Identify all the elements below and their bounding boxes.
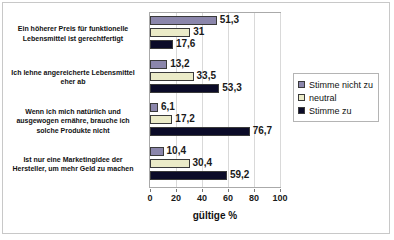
axis-tick-label: 100: [272, 193, 287, 203]
category-label: Ein höherer Preis für funktionelleLebens…: [3, 24, 143, 43]
bar-group: 6,117,276,7: [150, 100, 280, 144]
legend-swatch-icon: [298, 81, 305, 88]
category-label-line: Ein höherer Preis für funktionelle: [3, 24, 143, 34]
bar[interactable]: [150, 171, 227, 180]
bar-value-label: 6,1: [161, 100, 175, 114]
category-label-line: Lebensmittel ist gerechtfertigt: [3, 34, 143, 44]
bar[interactable]: [150, 40, 173, 49]
category-label-line: ausgewogen ernähre, brauche ich: [3, 116, 143, 126]
axis-tick-label: 40: [197, 193, 207, 203]
axis-tick-label: 20: [171, 193, 181, 203]
category-label-line: Ich lehne angereicherte Lebensmittel: [3, 68, 143, 78]
bar-value-label: 17,2: [175, 112, 194, 126]
bar-value-label: 17,6: [176, 37, 195, 51]
bar-value-label: 30,4: [193, 156, 212, 170]
bar-value-label: 13,2: [170, 57, 189, 71]
axis-tick-label: 80: [249, 193, 259, 203]
bar-group: 51,33117,6: [150, 13, 280, 57]
bar-row: 76,7: [150, 127, 280, 136]
bar[interactable]: [150, 159, 190, 168]
legend-item[interactable]: Stimme nicht zu: [298, 78, 373, 91]
bar-row: 53,3: [150, 84, 280, 93]
category-label-line: Hersteller, um mehr Geld zu machen: [3, 164, 143, 174]
axis-tick: [280, 189, 281, 192]
bar-group: 10,430,459,2: [150, 144, 280, 188]
bar[interactable]: [150, 60, 167, 69]
category-label-line: Ist nur eine Marketingidee der: [3, 155, 143, 165]
chart-container: 51,33117,613,233,553,36,117,276,710,430,…: [2, 2, 390, 234]
bar[interactable]: [150, 127, 250, 136]
legend-item[interactable]: neutral: [298, 91, 373, 104]
bar-row: 51,3: [150, 16, 280, 25]
bar-row: 6,1: [150, 103, 280, 112]
bar-value-label: 59,2: [230, 168, 249, 182]
axis-tick: [176, 189, 177, 192]
bar[interactable]: [150, 28, 190, 37]
bar-value-label: 76,7: [253, 124, 272, 138]
bar[interactable]: [150, 16, 217, 25]
bar-value-label: 51,3: [220, 13, 239, 27]
category-label-line: Wenn ich mich natürlich und: [3, 107, 143, 117]
bar-value-label: 53,3: [222, 81, 241, 95]
axis-tick: [202, 189, 203, 192]
bar[interactable]: [150, 147, 164, 156]
chart-legend: Stimme nicht zuneutralStimme zu: [293, 73, 379, 122]
plot-area: 51,33117,613,233,553,36,117,276,710,430,…: [149, 12, 281, 188]
category-label-line: solche Produkte nicht: [3, 126, 143, 136]
bar-row: 17,6: [150, 40, 280, 49]
bar-value-label: 10,4: [167, 144, 186, 158]
bar[interactable]: [150, 103, 158, 112]
value-axis: 020406080100: [149, 189, 281, 205]
category-label-line: eher ab: [3, 77, 143, 87]
bar-row: 59,2: [150, 171, 280, 180]
legend-item[interactable]: Stimme zu: [298, 104, 373, 117]
gridline: [280, 13, 281, 187]
bar-group: 13,233,553,3: [150, 57, 280, 101]
axis-tick: [150, 189, 151, 192]
bar-row: 31: [150, 28, 280, 37]
legend-label: neutral: [309, 93, 337, 103]
bar-row: 13,2: [150, 60, 280, 69]
axis-tick-label: 0: [147, 193, 152, 203]
bar-row: 30,4: [150, 159, 280, 168]
bar-row: 10,4: [150, 147, 280, 156]
axis-tick: [228, 189, 229, 192]
bar-row: 33,5: [150, 72, 280, 81]
bar[interactable]: [150, 84, 219, 93]
legend-label: Stimme nicht zu: [309, 80, 373, 90]
axis-tick: [254, 189, 255, 192]
bar[interactable]: [150, 72, 194, 81]
category-label: Wenn ich mich natürlich undausgewogen er…: [3, 107, 143, 136]
bar-value-label: 33,5: [197, 69, 216, 83]
bar-row: 17,2: [150, 115, 280, 124]
legend-label: Stimme zu: [309, 106, 352, 116]
legend-swatch-icon: [298, 94, 305, 101]
bar[interactable]: [150, 115, 172, 124]
value-axis-title: gültige %: [149, 210, 281, 221]
category-label: Ist nur eine Marketingidee derHersteller…: [3, 155, 143, 174]
category-label: Ich lehne angereicherte Lebensmitteleher…: [3, 68, 143, 87]
legend-swatch-icon: [298, 107, 305, 114]
axis-tick-label: 60: [223, 193, 233, 203]
